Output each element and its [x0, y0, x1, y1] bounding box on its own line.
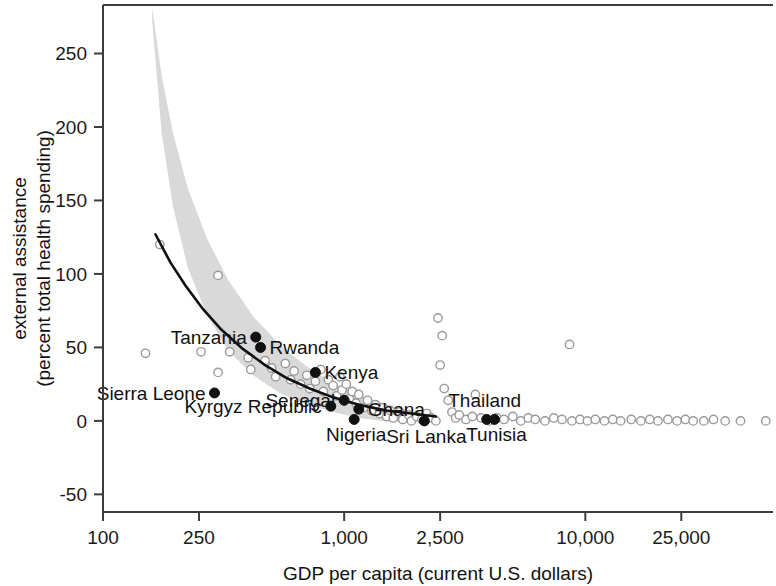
data-point-open	[600, 417, 608, 425]
data-point-open	[700, 417, 708, 425]
x-tick-label: 2,500	[416, 527, 464, 548]
data-point-open	[558, 415, 566, 423]
data-point-open	[438, 331, 446, 339]
x-axis-title: GDP per capita (current U.S. dollars)	[283, 563, 593, 584]
x-tick-label: 100	[87, 527, 119, 548]
data-point-open	[531, 415, 539, 423]
y-tick-label: 150	[55, 190, 87, 211]
y-axis-title-line-2: (percent total health spending)	[33, 130, 54, 387]
y-axis-title-line-1: external assistance	[9, 177, 30, 340]
data-point-open	[550, 414, 558, 422]
data-point-open	[583, 417, 591, 425]
y-tick-label: 250	[55, 43, 87, 64]
y-tick-label: 50	[66, 337, 87, 358]
data-point-open	[214, 368, 222, 376]
data-point-open	[281, 359, 289, 367]
data-point-open	[736, 417, 744, 425]
data-point-open	[762, 417, 770, 425]
data-point-open	[673, 417, 681, 425]
data-point-open	[500, 415, 508, 423]
data-point-open	[541, 417, 549, 425]
data-point-open	[440, 384, 448, 392]
data-point-open	[355, 390, 363, 398]
scatter-plot: TanzaniaRwandaKenyaSierra LeoneSenegalKy…	[0, 0, 776, 586]
data-point-open	[627, 415, 635, 423]
data-point-tanzania	[251, 332, 261, 342]
data-point-open	[509, 412, 517, 420]
data-point-open	[689, 417, 697, 425]
data-point-open	[436, 361, 444, 369]
data-point-open	[721, 417, 729, 425]
data-point-open	[311, 377, 319, 385]
point-label-thailand: Thailand	[448, 390, 521, 411]
y-tick-label: 100	[55, 264, 87, 285]
data-point-open	[646, 415, 654, 423]
point-label-nigeria: Nigeria	[326, 424, 387, 445]
data-point-open	[432, 417, 440, 425]
x-tick-label: 250	[183, 527, 215, 548]
data-point-ghana	[354, 404, 364, 414]
point-label-kenya: Kenya	[324, 362, 378, 383]
data-point-open	[214, 271, 222, 279]
data-point-open	[609, 415, 617, 423]
point-label-kyrgyz-republic: Kyrgyz Republic	[184, 396, 321, 417]
data-point-open	[637, 417, 645, 425]
x-axis-ticks: 1002501,0002,50010,00025,000	[87, 512, 710, 548]
confidence-interval-area	[152, 8, 406, 422]
x-tick-label: 25,000	[652, 527, 710, 548]
data-point-open	[565, 340, 573, 348]
data-point-open	[709, 415, 717, 423]
data-point-open	[303, 371, 311, 379]
y-tick-label: 200	[55, 117, 87, 138]
data-point-open	[225, 348, 233, 356]
y-tick-label: 0	[76, 411, 87, 432]
confidence-band	[152, 8, 406, 422]
data-point-open	[664, 415, 672, 423]
data-point-open	[290, 367, 298, 375]
point-label-ghana: Ghana	[368, 399, 425, 420]
data-point-open	[654, 417, 662, 425]
data-point-open	[591, 415, 599, 423]
data-point-open	[247, 365, 255, 373]
y-axis-ticks: -50050100150200250	[55, 43, 103, 505]
y-axis-title: external assistance (percent total healt…	[9, 130, 54, 387]
point-label-sri-lanka: Sri Lanka	[386, 426, 467, 447]
data-point-open	[568, 417, 576, 425]
data-point-open	[681, 415, 689, 423]
data-point-open	[197, 348, 205, 356]
data-point-open	[468, 412, 476, 420]
data-point-kenya	[310, 367, 320, 377]
point-label-rwanda: Rwanda	[270, 337, 340, 358]
data-point-open	[434, 314, 442, 322]
x-tick-label: 1,000	[320, 527, 368, 548]
data-point-rwanda	[256, 342, 266, 352]
x-tick-label: 10,000	[556, 527, 614, 548]
point-label-tunisia: Tunisia	[466, 424, 527, 445]
point-label-tanzania: Tanzania	[171, 327, 247, 348]
chart-figure: TanzaniaRwandaKenyaSierra LeoneSenegalKy…	[0, 0, 776, 586]
data-point-open	[616, 417, 624, 425]
data-point-senegal	[339, 395, 349, 405]
y-tick-label: -50	[60, 484, 87, 505]
data-point-nigeria	[349, 414, 359, 424]
data-point-open	[141, 349, 149, 357]
data-point-tunisia	[489, 414, 499, 424]
